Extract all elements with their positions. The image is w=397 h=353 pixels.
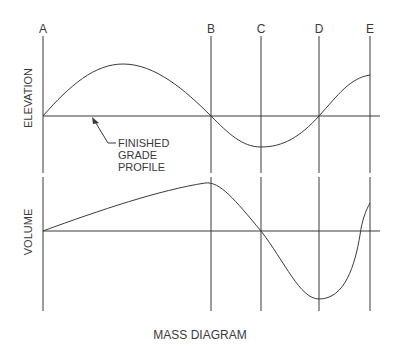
station-labels: A B C D E <box>39 22 374 36</box>
mass-curve <box>43 183 370 299</box>
station-label-a: A <box>39 22 47 36</box>
station-label-b: B <box>207 22 215 36</box>
volume-axis-label: VOLUME <box>22 209 34 255</box>
elevation-axis-label: ELEVATION <box>22 68 34 128</box>
station-lines-lower <box>43 177 370 311</box>
annotation-line-2: GRADE <box>118 149 157 161</box>
annotation-line-3: PROFILE <box>118 161 165 173</box>
station-label-d: D <box>315 22 324 36</box>
elevation-profile-curve <box>43 64 370 147</box>
annotation-line-1: FINISHED <box>118 137 169 149</box>
station-label-e: E <box>366 22 374 36</box>
finished-grade-pointer <box>92 117 116 143</box>
diagram-title: MASS DIAGRAM <box>153 328 246 342</box>
mass-diagram: A B C D E FINISHED GRADE PROFILE ELEVATI… <box>0 0 397 353</box>
station-label-c: C <box>257 22 266 36</box>
station-lines-upper <box>43 36 370 173</box>
